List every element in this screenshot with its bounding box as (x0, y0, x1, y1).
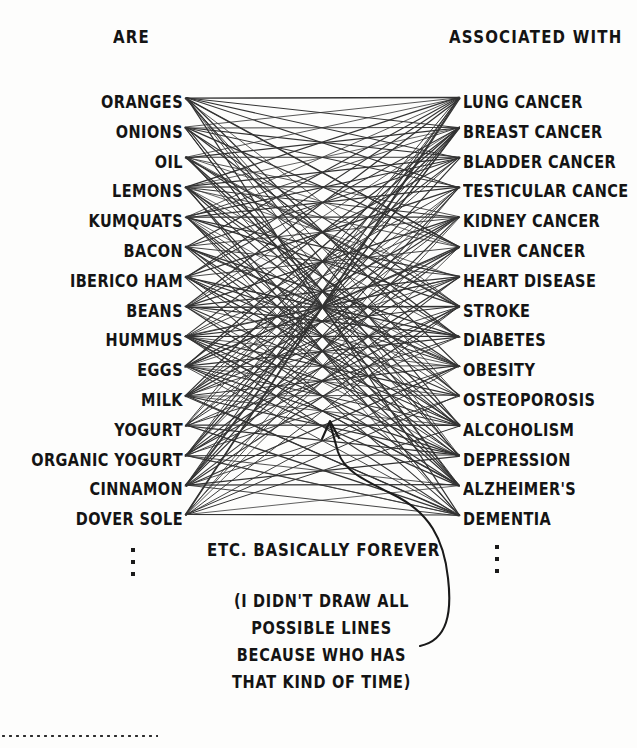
condition-label: LUNG CANCER (463, 94, 583, 111)
condition-label: DEPRESSION (463, 451, 571, 468)
condition-label: ALCOHOLISM (463, 421, 574, 438)
condition-label: STROKE (463, 302, 530, 319)
condition-label: LIVER CANCER (463, 243, 586, 260)
condition-label: DEMENTIA (463, 511, 551, 528)
association-edge (186, 247, 460, 397)
annotation-paren-line-4: THAT KIND OF TIME) (0, 673, 637, 692)
condition-label: OBESITY (463, 362, 535, 379)
cartoon-canvas: ARE ASSOCIATED WITH ORANGESONIONSOILLEMO… (0, 0, 637, 748)
bottom-dotted-rule (0, 734, 158, 738)
condition-label: HEART DISEASE (463, 272, 596, 289)
food-label: MILK (141, 392, 183, 409)
association-edge (187, 247, 459, 515)
condition-label: BREAST CANCER (463, 123, 603, 140)
condition-label: TESTICULAR CANCE (463, 183, 629, 200)
annotation-paren-line-1: (I DIDN'T DRAW ALL (0, 592, 637, 611)
food-label: YOGURT (114, 421, 183, 438)
food-label: BEANS (126, 302, 183, 319)
association-edge (186, 99, 458, 278)
condition-label: OSTEOPOROSIS (463, 392, 595, 409)
annotation-paren-line-3: BECAUSE WHO HAS (0, 646, 637, 665)
annotation-paren-line-2: POSSIBLE LINES (0, 619, 637, 638)
food-label: ONIONS (116, 123, 183, 140)
food-label: ORGANIC YOGURT (31, 451, 183, 468)
annotation-etc-basically-forever: ETC. BASICALLY FOREVER (0, 539, 637, 560)
food-label: DOVER SOLE (76, 511, 183, 528)
food-label: IBERICO HAM (70, 272, 183, 289)
food-label: HUMMUS (106, 332, 183, 349)
condition-label: BLADDER CANCER (463, 153, 616, 170)
food-label: LEMONS (112, 183, 183, 200)
association-edge (185, 187, 458, 456)
food-label: OIL (155, 153, 183, 170)
food-label: BACON (124, 243, 183, 260)
food-label: ORANGES (101, 94, 183, 111)
food-label: EGGS (137, 362, 183, 379)
condition-label: DIABETES (463, 332, 546, 349)
food-label: KUMQUATS (89, 213, 183, 230)
food-label: CINNAMON (89, 481, 183, 498)
condition-label: ALZHEIMER'S (463, 481, 576, 498)
association-edge (186, 98, 459, 99)
condition-label: KIDNEY CANCER (463, 213, 600, 230)
